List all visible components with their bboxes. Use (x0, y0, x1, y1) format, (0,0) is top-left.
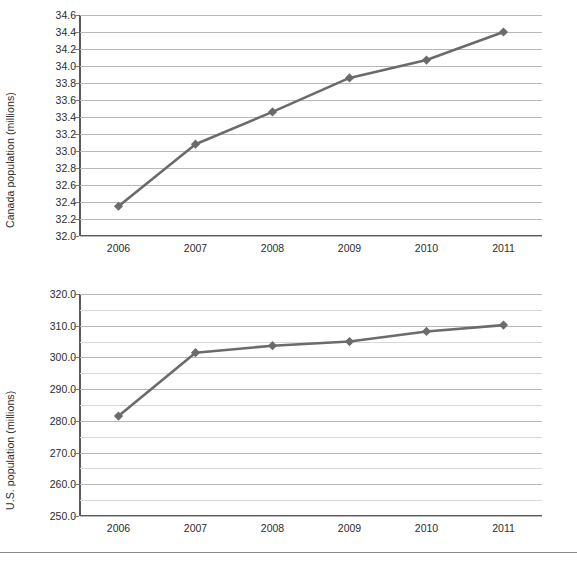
x-tick-label: 2009 (338, 522, 361, 534)
data-point-marker (268, 341, 277, 350)
canada-y-axis-title: Canada population (millions) (4, 28, 16, 228)
y-tick-label: 310.0 (50, 320, 76, 332)
y-axis-tick-mark (74, 484, 79, 485)
y-tick-label: 34.4 (56, 26, 76, 38)
data-line (119, 325, 504, 416)
y-axis-tick-mark (74, 134, 79, 135)
y-axis-tick-mark (74, 421, 79, 422)
chart-us-population: U.S. population (millions) 320.0310.0300… (0, 280, 577, 550)
x-tick-label: 2008 (261, 242, 284, 254)
y-tick-label: 34.2 (56, 43, 76, 55)
canada-plot-area (80, 15, 542, 236)
series-line-canada (80, 15, 542, 236)
us-plot-area (80, 294, 542, 516)
y-axis-tick-mark (74, 168, 79, 169)
y-axis-tick-mark (74, 294, 79, 295)
data-point-marker (499, 27, 508, 36)
y-axis-tick-mark (74, 83, 79, 84)
y-tick-label: 33.2 (56, 128, 76, 140)
chart-canada-population: Canada population (millions) 34.634.434.… (0, 0, 577, 272)
y-tick-label: 32.0 (56, 230, 76, 242)
gridline-major (80, 236, 542, 237)
gridline-major (80, 516, 542, 517)
y-axis-tick-mark (74, 326, 79, 327)
data-point-marker (499, 320, 508, 329)
y-tick-label: 270.0 (50, 447, 76, 459)
x-tick-label: 2007 (184, 242, 207, 254)
figure-page: Canada population (millions) 34.634.434.… (0, 0, 577, 567)
y-axis-tick-mark (74, 453, 79, 454)
series-line-us (80, 294, 542, 516)
y-tick-label: 32.8 (56, 162, 76, 174)
x-tick-label: 2008 (261, 522, 284, 534)
y-axis-tick-mark (74, 151, 79, 152)
x-tick-label: 2006 (107, 242, 130, 254)
data-line (119, 32, 504, 206)
y-axis-tick-mark (74, 202, 79, 203)
x-tick-label: 2007 (184, 522, 207, 534)
x-tick-label: 2011 (492, 522, 515, 534)
footer-caption (10, 556, 570, 567)
y-axis-tick-mark (74, 15, 79, 16)
y-axis-tick-mark (74, 100, 79, 101)
y-tick-label: 250.0 (50, 510, 76, 522)
y-axis-tick-mark (74, 49, 79, 50)
y-tick-label: 33.6 (56, 94, 76, 106)
x-tick-label: 2011 (492, 242, 515, 254)
us-x-axis-tick-labels: 200620072008200920102011 (80, 520, 542, 542)
y-axis-tick-mark (74, 185, 79, 186)
y-tick-label: 280.0 (50, 415, 76, 427)
y-axis-tick-mark (74, 66, 79, 67)
y-tick-label: 260.0 (50, 478, 76, 490)
y-tick-label: 34.6 (56, 9, 76, 21)
y-tick-label: 300.0 (50, 351, 76, 363)
data-point-marker (345, 73, 354, 82)
y-axis-tick-mark (74, 516, 79, 517)
data-point-marker (422, 327, 431, 336)
x-tick-label: 2010 (415, 522, 438, 534)
y-tick-label: 34.0 (56, 60, 76, 72)
x-tick-label: 2010 (415, 242, 438, 254)
y-tick-label: 32.2 (56, 213, 76, 225)
y-tick-label: 33.4 (56, 111, 76, 123)
y-tick-label: 290.0 (50, 383, 76, 395)
us-y-axis-title: U.S. population (millions) (4, 320, 16, 510)
data-point-marker (268, 107, 277, 116)
y-tick-label: 33.8 (56, 77, 76, 89)
y-axis-tick-mark (74, 236, 79, 237)
x-tick-label: 2009 (338, 242, 361, 254)
canada-x-axis-tick-labels: 200620072008200920102011 (80, 240, 542, 262)
y-tick-label: 32.4 (56, 196, 76, 208)
y-tick-label: 33.0 (56, 145, 76, 157)
x-tick-label: 2006 (107, 522, 130, 534)
y-axis-tick-mark (74, 117, 79, 118)
data-point-marker (345, 337, 354, 346)
y-tick-label: 32.6 (56, 179, 76, 191)
data-point-marker (422, 55, 431, 64)
footer-divider (0, 552, 577, 553)
y-axis-tick-mark (74, 389, 79, 390)
y-axis-tick-mark (74, 219, 79, 220)
y-axis-tick-mark (74, 32, 79, 33)
y-axis-tick-mark (74, 357, 79, 358)
y-tick-label: 320.0 (50, 288, 76, 300)
